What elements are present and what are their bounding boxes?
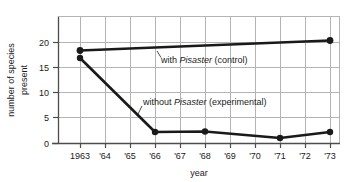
xtick-label-1971: '71 (274, 151, 286, 161)
control-annotation-suffix: (control) (212, 55, 248, 65)
control-annotation-prefix: with (160, 55, 180, 65)
experimental-annotation-genus: Pisaster (174, 97, 208, 107)
xtick-label-1969: '69 (224, 151, 236, 161)
xtick-label-1968: '68 (199, 151, 211, 161)
ytick-label-20: 20 (39, 38, 49, 48)
y-axis-title-line2: present (19, 64, 29, 95)
ytick-label-10: 10 (39, 88, 49, 98)
experimental-annotation-prefix: without (142, 97, 174, 107)
data-point-exp-1968 (202, 128, 208, 134)
ytick-label-15: 15 (39, 63, 49, 73)
ytick-label-0: 0 (44, 139, 49, 149)
xtick-label-1965: '65 (124, 151, 136, 161)
experimental-annotation-label: without Pisaster (experimental) (142, 97, 267, 107)
ytick-label-5: 5 (44, 113, 49, 123)
data-point-exp-1966 (152, 129, 158, 135)
x-axis-title: year (190, 168, 208, 178)
xtick-label-1966: '66 (149, 151, 161, 161)
xtick-label-1964: '64 (99, 151, 111, 161)
y-axis-ticks (53, 43, 58, 144)
control-annotation-genus: Pisaster (180, 55, 214, 65)
xtick-label-1970: '70 (249, 151, 261, 161)
xtick-label-1963: 1963 (70, 151, 90, 161)
y-axis-title-line1: number of species (6, 43, 16, 117)
xtick-label-1967: '67 (174, 151, 186, 161)
control-annotation-label: with Pisaster (control) (160, 55, 248, 65)
xtick-label-1973: '73 (324, 151, 336, 161)
data-point-exp-1971 (277, 135, 283, 141)
chart-canvas: 20 15 10 5 0 1963 '64 '65 '66 '67 '68 '6… (0, 0, 350, 182)
data-point-exp-1963 (77, 55, 83, 61)
data-point-ctrl-1973 (327, 37, 334, 44)
data-point-ctrl-1963 (77, 47, 84, 54)
xtick-label-1972: '72 (299, 151, 311, 161)
data-point-exp-1973 (327, 129, 333, 135)
experimental-annotation-suffix: (experimental) (207, 97, 267, 107)
species-vs-year-line-chart: 20 15 10 5 0 1963 '64 '65 '66 '67 '68 '6… (0, 0, 350, 182)
